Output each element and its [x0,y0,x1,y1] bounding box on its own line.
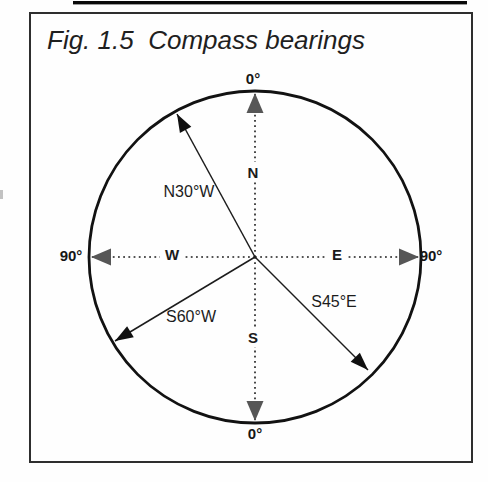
bearing-line-s60w [115,257,255,341]
bearing-line-s45e [255,257,368,370]
north-label: N [248,164,259,181]
compass-bearings-diagram: Fig. 1.5 Compass bearings N S W E 0° 0° … [0,0,488,482]
figure-panel: Fig. 1.5 Compass bearings N S W E 0° 0° … [0,0,488,482]
bearing-label-s60w: S60°W [166,308,217,325]
left-degree-label: 90° [60,247,83,264]
scan-artifact-speck [0,190,3,199]
bearing-label-s45e: S45°E [311,293,357,310]
south-label: S [248,329,258,346]
scan-artifact-bar [73,1,467,4]
east-label: E [332,246,342,263]
right-degree-label: 90° [420,247,443,264]
figure-title: Fig. 1.5 Compass bearings [47,25,365,55]
top-degree-label: 0° [246,70,260,87]
bottom-degree-label: 0° [248,425,262,442]
west-label: W [165,246,180,263]
bearing-label-n30w: N30°W [164,183,216,200]
